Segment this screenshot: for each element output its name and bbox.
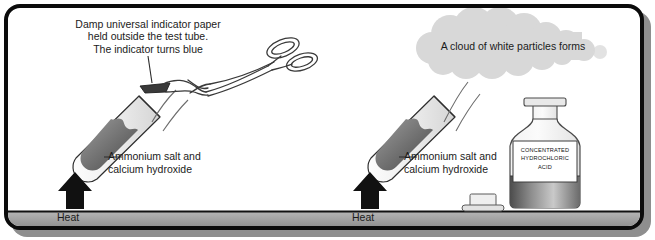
left-gas-lines: [152, 90, 188, 131]
cloud-caption: A cloud of white particles forms: [415, 40, 611, 52]
diagram-stage: Damp universal indicator paper held outs…: [0, 0, 655, 240]
indicator-caption-line-3: The indicator turns blue: [58, 43, 238, 55]
acid-bottle-label-line-1: CONCENTRATED: [514, 146, 576, 154]
left-heat-label: Heat: [57, 211, 79, 223]
right-tube-caption-line-1: Ammonium salt and: [404, 150, 497, 163]
left-tube-caption-line-2: calcium hydroxide: [108, 163, 201, 176]
right-heat-label: Heat: [352, 211, 374, 223]
right-tube-caption-line-2: calcium hydroxide: [404, 163, 497, 176]
indicator-caption-line-2: held outside the test tube.: [58, 30, 238, 42]
right-gas-lines: [444, 82, 480, 131]
indicator-leader-line: [148, 56, 152, 83]
left-tube-caption-line-1: Ammonium salt and: [108, 150, 201, 163]
indicator-paper: [140, 83, 170, 93]
indicator-caption-line-1: Damp universal indicator paper: [58, 18, 238, 30]
bench-surface: [8, 212, 642, 229]
acid-bottle-label-line-3: ACID: [514, 163, 576, 171]
right-tube-caption: Ammonium salt and calcium hydroxide: [404, 150, 497, 175]
acid-bottle-label-line-2: HYDROCHLORIC: [514, 154, 576, 162]
acid-bottle-label: CONCENTRATED HYDROCHLORIC ACID: [514, 146, 576, 171]
indicator-paper-caption: Damp universal indicator paper held outs…: [58, 18, 238, 55]
left-tube-caption: Ammonium salt and calcium hydroxide: [108, 150, 201, 175]
bottle-stopper: [462, 194, 504, 211]
